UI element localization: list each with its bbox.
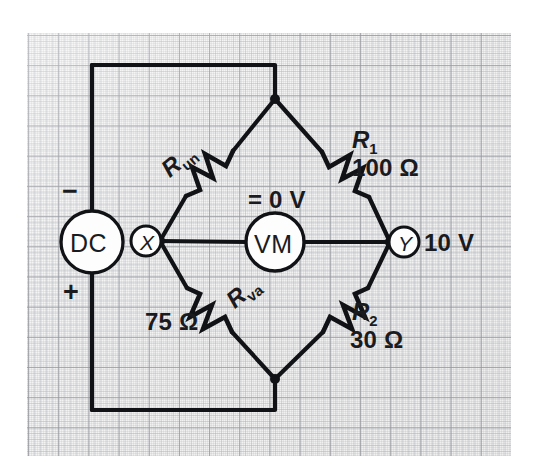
dc-source-label: DC [70, 231, 107, 256]
wire-arm-upper-right-a [275, 99, 322, 152]
resistor-symbol-text-r1: R [352, 126, 369, 153]
wire-arm-lower-right-b [275, 332, 323, 379]
wire-arm-upper-right-b [369, 197, 390, 242]
wire-bottom-lead [92, 379, 275, 410]
resistor-label-r2: R2 [352, 300, 378, 329]
resistor-value-r-va: 75 Ω [145, 310, 198, 334]
resistor-symbol-text-r2: R [352, 298, 369, 325]
wire-bridge-left [160, 241, 246, 242]
dc-negative-terminal-label: − [62, 178, 78, 205]
wire-arm-lower-right-a [368, 242, 390, 288]
terminal-y-label: Y [398, 233, 412, 254]
wire-arm-lower-left-a [160, 241, 187, 288]
terminal-x-label: X [140, 232, 154, 253]
wire-arm-upper-left-b [160, 196, 186, 241]
voltmeter-label: VM [254, 232, 293, 257]
terminal-y-voltage-label: 10 V [424, 231, 474, 255]
resistor-value-r1: 100 Ω [352, 156, 419, 180]
wire-arm-lower-left-b [232, 332, 275, 379]
dc-positive-terminal-label: + [63, 279, 79, 306]
node-top [270, 94, 280, 104]
resistor-value-r2: 30 Ω [350, 328, 403, 352]
figure-canvas: DC − + X Y 10 V VM = 0 V Run R1 100 Ω Rv… [0, 0, 533, 472]
wire-top-lead [92, 65, 275, 99]
voltmeter-reading-label: = 0 V [248, 188, 306, 212]
wire-arm-upper-left-a [233, 99, 275, 151]
resistor-label-r1: R1 [352, 128, 378, 157]
node-bottom [270, 374, 280, 384]
